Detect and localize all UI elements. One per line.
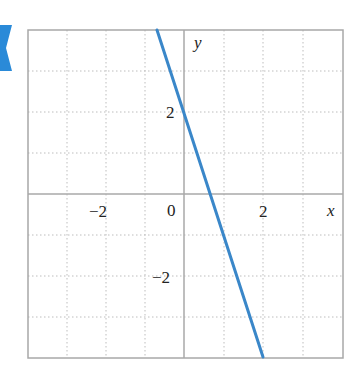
x-axis-label: x (327, 202, 335, 219)
x-tick-pos2: 2 (259, 203, 268, 220)
y-tick-neg2: −2 (152, 269, 170, 286)
graph-plot-area (0, 0, 360, 387)
y-tick-pos2: 2 (166, 104, 175, 121)
origin-label: 0 (167, 202, 176, 219)
y-axis-label: y (194, 34, 202, 51)
x-tick-neg2: −2 (89, 203, 107, 220)
